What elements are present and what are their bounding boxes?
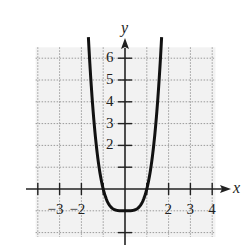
y-tick-label: 6 bbox=[106, 50, 114, 65]
y-tick-label: 2 bbox=[106, 137, 114, 152]
y-tick-label: 5 bbox=[106, 72, 114, 87]
x-tick-label: 3 bbox=[186, 202, 194, 217]
x-tick-label: −3 bbox=[48, 202, 64, 217]
x-tick-label: 4 bbox=[208, 202, 216, 217]
x-axis-label: x bbox=[233, 180, 240, 196]
x-tick-label: −2 bbox=[69, 202, 85, 217]
y-tick-label: 3 bbox=[106, 116, 114, 131]
y-axis-label: y bbox=[121, 20, 128, 36]
x-tick-label: 2 bbox=[165, 202, 173, 217]
y-tick-label: 4 bbox=[106, 94, 114, 109]
